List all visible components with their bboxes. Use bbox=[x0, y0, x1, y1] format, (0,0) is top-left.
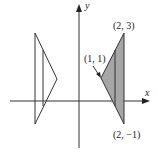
label-left-vertex: (1, 1) bbox=[84, 53, 106, 65]
y-axis-label: y bbox=[84, 0, 90, 11]
shaded-triangle bbox=[101, 33, 124, 124]
y-axis: y bbox=[76, 0, 90, 148]
label-bottom-vertex: (2, −1) bbox=[113, 129, 140, 141]
x-axis: x bbox=[10, 87, 150, 104]
outline-triangle bbox=[35, 33, 57, 124]
coordinate-diagram: x y (2, 3) (1, 1) (2, −1) bbox=[0, 0, 158, 156]
x-axis-arrow-icon bbox=[142, 98, 150, 104]
y-axis-arrow-icon bbox=[76, 4, 82, 12]
x-axis-label: x bbox=[144, 87, 150, 98]
label-top-vertex: (2, 3) bbox=[113, 20, 135, 32]
pointer-arrow-icon bbox=[93, 66, 101, 78]
